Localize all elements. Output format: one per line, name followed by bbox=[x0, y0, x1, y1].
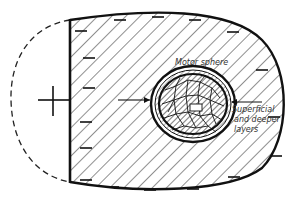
label-layers-line1: Superficial bbox=[232, 105, 274, 114]
label-layers-line3: layers bbox=[234, 125, 258, 134]
label-motor-sphere: Motor sphere bbox=[175, 58, 228, 67]
motor-sphere-diagram bbox=[0, 0, 300, 197]
dashed-boundary bbox=[11, 20, 70, 182]
motor-sphere bbox=[151, 66, 235, 142]
label-layers-line2: and deeper bbox=[234, 115, 280, 124]
plus-sign-icon bbox=[38, 86, 70, 116]
